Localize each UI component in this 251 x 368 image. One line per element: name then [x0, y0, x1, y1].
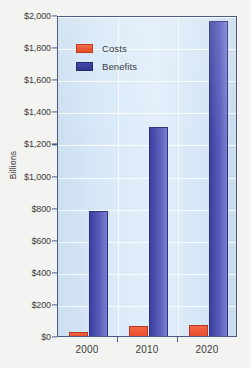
y-axis-tick-label: $200 — [31, 300, 51, 310]
bar-benefits-2000 — [89, 211, 108, 336]
y-axis-tick-label: $1,000 — [24, 172, 51, 182]
y-axis-tick-label: $1,200 — [24, 139, 51, 149]
legend-label-costs: Costs — [102, 43, 127, 54]
bar-benefits-2010 — [149, 127, 168, 336]
y-axis-tick-label: $400 — [31, 268, 51, 278]
x-axis-line — [57, 336, 237, 337]
bar-costs-2000 — [69, 332, 88, 336]
plot-area: Costs Benefits — [57, 16, 237, 337]
x-axis-tick-label: 2020 — [195, 344, 218, 355]
legend-label-benefits: Benefits — [102, 61, 137, 72]
y-axis-tick-label: $2,000 — [24, 11, 51, 21]
legend-item-benefits: Benefits — [76, 61, 137, 72]
legend-swatch-benefits-icon — [76, 62, 93, 71]
bar-benefits-2020 — [209, 21, 228, 336]
y-axis-tick-label: $1,800 — [24, 43, 51, 53]
y-axis-tick-label: $600 — [31, 236, 51, 246]
x-axis-tick-label: 2000 — [75, 344, 98, 355]
bar-chart: Billions $0$200$400$600$800$1,000$1,200$… — [0, 0, 251, 368]
y-axis: $0$200$400$600$800$1,000$1,200$1,400$1,6… — [0, 16, 57, 337]
legend-item-costs: Costs — [76, 43, 137, 54]
y-axis-tick-label: $1,600 — [24, 75, 51, 85]
y-axis-tick-label: $0 — [41, 332, 51, 342]
x-axis-tick-mark — [177, 337, 178, 342]
chart-legend: Costs Benefits — [76, 43, 137, 72]
y-axis-tick-label: $800 — [31, 204, 51, 214]
x-axis-tick-mark — [117, 337, 118, 342]
x-axis-tick-label: 2010 — [135, 344, 158, 355]
bar-costs-2010 — [129, 326, 148, 336]
legend-swatch-costs-icon — [76, 44, 93, 53]
y-axis-tick-label: $1,400 — [24, 107, 51, 117]
bar-costs-2020 — [189, 325, 208, 336]
